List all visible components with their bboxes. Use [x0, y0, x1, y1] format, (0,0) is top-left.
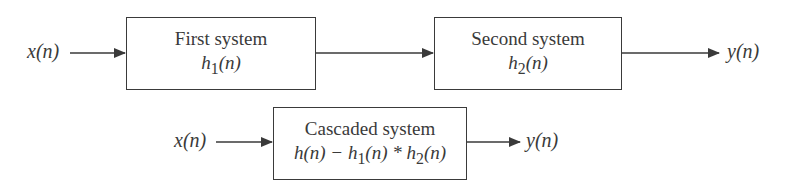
block-title: Second system	[471, 27, 584, 51]
block-title: First system	[175, 27, 267, 51]
input-signal-label: x(n)	[27, 40, 59, 63]
first-system-block: First system h1(n)	[126, 17, 316, 90]
impulse-response: h2(n)	[508, 51, 548, 81]
cascaded-system-block: Cascaded system h(n) − h1(n) * h2(n)	[273, 107, 467, 180]
block-title: Cascaded system	[305, 117, 435, 141]
cascade-input-label: x(n)	[174, 129, 206, 152]
cascade-output-label: y(n)	[526, 129, 558, 152]
second-system-block: Second system h2(n)	[434, 17, 622, 90]
cascade-formula: h(n) − h1(n) * h2(n)	[294, 141, 446, 171]
impulse-response: h1(n)	[201, 51, 241, 81]
output-signal-label: y(n)	[727, 40, 759, 63]
